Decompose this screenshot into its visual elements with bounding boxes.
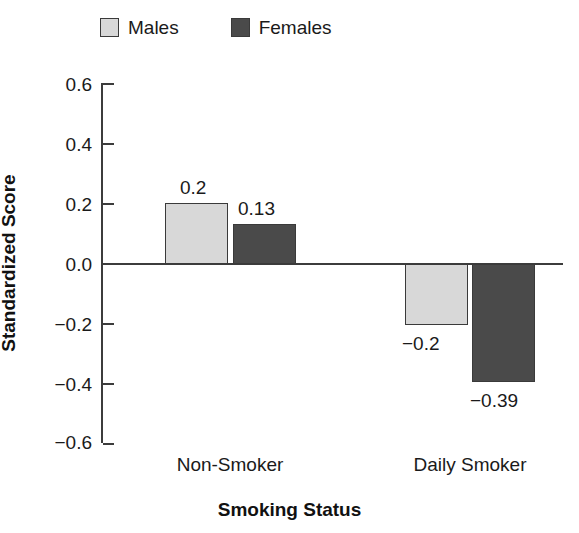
legend-label-females: Females <box>259 18 332 37</box>
y-tick-mark <box>103 203 114 205</box>
y-tick-mark <box>103 143 114 145</box>
bar-chart-figure: Males Females Standardized Score 0.6 0.4… <box>0 0 579 533</box>
x-axis-title: Smoking Status <box>0 500 579 519</box>
y-axis-title: Standardized Score <box>0 174 18 351</box>
y-tick-label: 0.4 <box>66 135 92 154</box>
plot-area: 0.6 0.4 0.2 0.0 −0.2 −0.4 −0.6 0.2 0.13 … <box>101 83 563 443</box>
legend-swatch-females <box>231 18 250 37</box>
bar-value-daily-smoker-females: −0.39 <box>470 391 518 410</box>
y-tick-label: 0.6 <box>66 75 92 94</box>
bar-non-smoker-females <box>233 224 296 264</box>
bar-daily-smoker-males <box>405 264 468 325</box>
y-tick-label: −0.6 <box>54 433 92 452</box>
y-tick-mark <box>103 263 114 265</box>
y-tick-mark <box>103 323 114 325</box>
y-tick-mark <box>103 443 114 445</box>
chart-legend: Males Females <box>100 14 332 40</box>
legend-entry-females: Females <box>231 18 332 37</box>
y-tick-mark <box>103 83 114 85</box>
y-tick-label: −0.2 <box>54 315 92 334</box>
x-tick-label-daily-smoker: Daily Smoker <box>414 455 527 474</box>
y-tick-label: 0.0 <box>66 255 92 274</box>
legend-entry-males: Males <box>100 18 179 37</box>
x-tick-label-non-smoker: Non-Smoker <box>177 455 284 474</box>
legend-label-males: Males <box>128 18 179 37</box>
bar-value-non-smoker-males: 0.2 <box>180 178 206 197</box>
y-tick-label: 0.2 <box>66 195 92 214</box>
legend-swatch-males <box>100 18 119 37</box>
y-tick-label: −0.4 <box>54 375 92 394</box>
bar-value-daily-smoker-males: −0.2 <box>402 334 440 353</box>
bar-non-smoker-males <box>165 203 228 264</box>
y-tick-mark <box>103 383 114 385</box>
bar-daily-smoker-females <box>472 264 535 382</box>
bar-value-non-smoker-females: 0.13 <box>238 199 275 218</box>
